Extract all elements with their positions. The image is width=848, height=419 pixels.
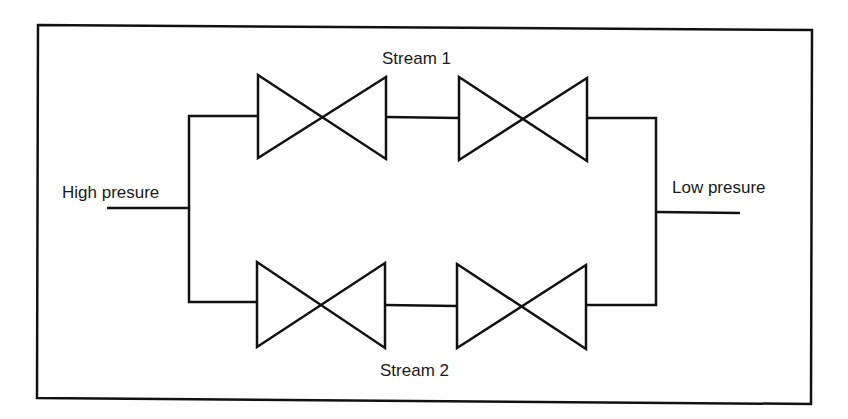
stream1-label: Stream 1 [382, 50, 451, 67]
stream2-label: Stream 2 [380, 362, 449, 379]
stream2-valve-1 [257, 262, 385, 348]
stream1-connector [386, 117, 459, 118]
outlet-line [656, 212, 740, 213]
stream2-connector [385, 305, 457, 306]
stream1-valve-1 [258, 75, 386, 159]
stream1-valve-2 [459, 77, 587, 161]
right-manifold [586, 118, 656, 305]
frame-border [37, 25, 812, 404]
high-pressure-label: High presure [62, 184, 159, 201]
left-manifold [189, 116, 258, 302]
low-pressure-label: Low presure [672, 179, 766, 196]
stream2-valve-2 [457, 264, 586, 349]
